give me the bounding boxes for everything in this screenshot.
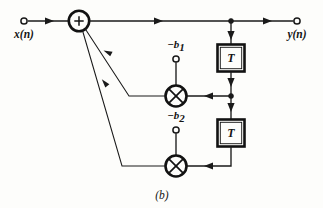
coefficient-2-branch: −b2 (167, 109, 185, 156)
feedback-path-1 (85, 29, 166, 97)
input-arrowhead (45, 17, 54, 24)
coefficient-2-sign: − (167, 109, 174, 121)
input-terminal-node (21, 18, 27, 24)
output-arrowhead (263, 17, 272, 24)
tap-junction-dot-top (229, 19, 234, 24)
signal-flow-diagram: T −b1 (0, 0, 323, 208)
coefficient-2-terminal-node (173, 127, 179, 133)
figure-caption: (b) (155, 189, 169, 202)
delay-block-1: T (218, 45, 245, 72)
multiplier-2 (166, 156, 187, 177)
coefficient-1-label: −b1 (167, 38, 185, 53)
feedback-1-wire (85, 29, 166, 97)
coefficient-2-label: −b2 (167, 109, 185, 124)
output-label: y(n) (285, 28, 306, 41)
output-branch (89, 17, 300, 24)
feedback-tap-line (227, 19, 234, 46)
multiplier-1 (166, 86, 187, 107)
mid-to-delay2-branch (227, 96, 234, 120)
delay-block-2: T (218, 120, 245, 147)
coefficient-1-subscript: 1 (179, 41, 185, 53)
coefficient-2-subscript: 2 (178, 112, 185, 124)
mult2-input-arrowhead (204, 162, 213, 169)
b2-feed-wire (187, 147, 232, 170)
forward-arrowhead (154, 17, 163, 24)
feedback-path-2 (83, 31, 166, 167)
delay2-input-arrowhead (227, 103, 234, 112)
delay-2-label: T (227, 126, 235, 140)
feedback-2-wire (83, 31, 166, 167)
coefficient-1-terminal-node (173, 56, 179, 62)
mult1-input-arrowhead (204, 92, 213, 99)
output-terminal-node (294, 18, 300, 24)
delay1-out-arrowhead (227, 78, 234, 87)
delay1-output-wire (227, 72, 234, 99)
coefficient-1-branch: −b1 (167, 38, 185, 86)
feedback-1-arrowhead (104, 51, 113, 57)
input-label: x(n) (13, 28, 34, 41)
summing-junction (69, 11, 89, 31)
delay-1-label: T (227, 51, 235, 65)
feedback-2-arrowhead (102, 79, 110, 87)
tap-arrowhead-1 (227, 31, 234, 40)
input-branch (21, 17, 71, 24)
coefficient-1-sign: − (167, 38, 174, 50)
figure-container: T −b1 (0, 0, 323, 208)
b1-feed-wire (187, 92, 232, 99)
delay2-to-mult2-wire (187, 147, 232, 167)
